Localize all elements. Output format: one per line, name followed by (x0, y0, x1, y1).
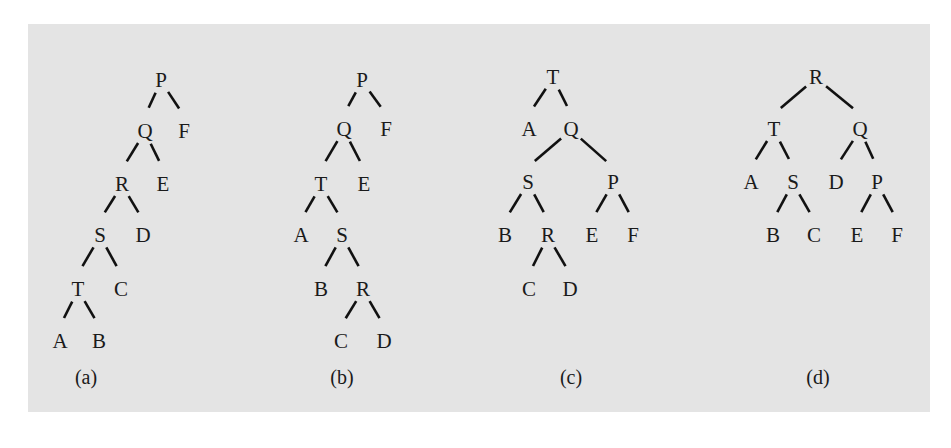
edge-q-p (865, 142, 873, 159)
tree-node-d: D (562, 277, 577, 301)
tree-node-c: C (334, 329, 348, 353)
tree-node-b: B (498, 223, 512, 247)
edge-s-r (534, 194, 544, 212)
tree-node-c: C (114, 277, 128, 301)
tree-node-s: S (522, 170, 534, 194)
tree-node-a: A (743, 170, 759, 194)
tree-rotation-diagram: PQFRESDTCAB(a) PQFTEASBRCD(b) TAQSPBREFC… (0, 0, 951, 448)
edge-r-d (555, 247, 566, 266)
edge-t-a (534, 89, 546, 107)
edge-q-e (350, 142, 360, 161)
tree-d: RTQASDPBCEF(d) (743, 65, 902, 389)
tree-node-f: F (380, 117, 392, 141)
tree-node-f: F (891, 223, 903, 247)
tree-node-d: D (828, 170, 843, 194)
edge-p-f (883, 194, 893, 212)
tree-c: TAQSPBREFCD(c) (498, 65, 639, 389)
edge-s-c (799, 194, 809, 212)
edge-t-s (780, 142, 789, 159)
tree-node-t: T (315, 172, 328, 196)
tree-node-r: R (541, 223, 555, 247)
edge-s-r (348, 247, 358, 266)
tree-node-r: R (115, 172, 129, 196)
tree-node-f: F (178, 119, 190, 143)
subfigure-caption: (d) (806, 366, 829, 389)
edge-r-d (370, 301, 380, 318)
edge-q-d (841, 141, 853, 160)
tree-node-c: C (522, 277, 536, 301)
edge-r-s (105, 196, 115, 212)
tree-node-c: C (807, 223, 821, 247)
edge-t-a (306, 196, 315, 212)
tree-node-b: B (766, 223, 780, 247)
tree-a: PQFRESDTCAB(a) (52, 68, 189, 389)
edge-s-c (106, 247, 116, 266)
edge-t-a (64, 302, 72, 318)
tree-node-p: P (607, 170, 619, 194)
tree-node-b: B (92, 329, 106, 353)
edge-t-b (85, 301, 95, 318)
edge-p-f (619, 194, 629, 212)
tree-node-b: B (314, 277, 328, 301)
tree-node-a: A (52, 329, 68, 353)
tree-node-e: E (157, 172, 170, 196)
tree-node-q: Q (852, 117, 867, 141)
tree-node-a: A (521, 117, 537, 141)
tree-node-q: Q (563, 117, 578, 141)
tree-node-q: Q (336, 117, 351, 141)
edge-r-c (533, 248, 542, 266)
tree-node-t: T (768, 117, 781, 141)
edge-t-a (756, 141, 767, 159)
edge-p-f (168, 92, 179, 109)
subfigure-caption: (c) (560, 366, 582, 389)
tree-node-s: S (787, 170, 799, 194)
tree-node-r: R (809, 65, 823, 89)
edge-r-d (129, 196, 139, 212)
tree-node-t: T (547, 65, 560, 89)
tree-node-p: P (871, 170, 883, 194)
edge-r-t (781, 87, 806, 109)
tree-node-p: P (356, 68, 368, 92)
tree-node-t: T (72, 277, 85, 301)
edge-s-b (510, 194, 521, 212)
subfigure-caption: (a) (75, 366, 97, 389)
edge-q-t (326, 141, 338, 161)
tree-node-d: D (376, 329, 391, 353)
edge-q-r (127, 143, 138, 161)
tree-node-d: D (135, 223, 150, 247)
edge-s-t (83, 247, 94, 266)
edge-p-f (370, 92, 381, 107)
tree-node-s: S (94, 223, 106, 247)
edge-s-b (325, 247, 335, 266)
tree-node-r: R (356, 277, 370, 301)
edge-p-e (861, 194, 871, 212)
tree-node-a: A (293, 223, 309, 247)
edge-t-q (559, 90, 567, 106)
tree-node-f: F (627, 223, 639, 247)
tree-node-e: E (358, 172, 371, 196)
tree-b: PQFTEASBRCD(b) (293, 68, 391, 389)
edge-r-q (826, 86, 853, 108)
tree-node-q: Q (137, 119, 152, 143)
edge-r-c (346, 301, 357, 318)
edge-s-b (777, 194, 787, 212)
subfigure-caption: (b) (330, 366, 353, 389)
tree-node-s: S (336, 223, 348, 247)
edge-q-s (535, 139, 561, 162)
edge-p-e (596, 194, 606, 212)
tree-node-e: E (851, 223, 864, 247)
tree-node-e: E (586, 223, 599, 247)
edge-q-p (581, 139, 606, 162)
edge-q-e (151, 144, 159, 161)
tree-node-p: P (155, 68, 167, 92)
edge-t-s (328, 196, 338, 212)
edge-p-q (149, 93, 156, 108)
edge-p-q (348, 92, 356, 106)
